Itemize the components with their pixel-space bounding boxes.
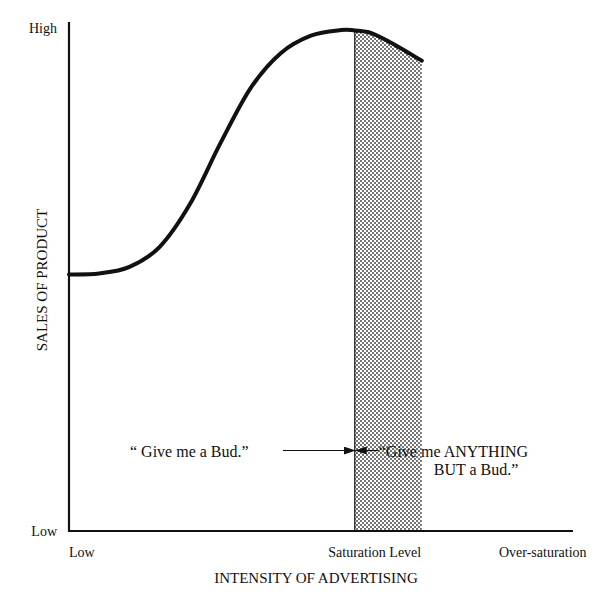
y-tick-label-high: High — [29, 21, 57, 36]
x-tick-label-saturation: Saturation Level — [328, 545, 421, 560]
annotation-give-me-a-bud: “ Give me a Bud.” — [130, 443, 249, 460]
y-axis-title: SALES OF PRODUCT — [34, 209, 50, 352]
annotation-anything-but-a-bud-line2: BUT a Bud.” — [434, 461, 519, 478]
x-axis-title: INTENSITY OF ADVERTISING — [214, 570, 418, 586]
annotation-anything-but-a-bud-line1: “Give me ANYTHING — [379, 443, 529, 460]
x-tick-label-low: Low — [69, 545, 96, 560]
chart: High Low Low Saturation Level Over-satur… — [0, 0, 611, 598]
x-tick-label-over-saturation: Over-saturation — [499, 545, 587, 560]
y-tick-label-low: Low — [31, 524, 58, 539]
